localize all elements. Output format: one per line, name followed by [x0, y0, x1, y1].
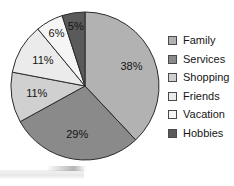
pie-slice-label-hobbies: 5% — [68, 20, 84, 32]
legend-item-shopping[interactable]: Shopping — [168, 71, 234, 84]
legend-item-vacation[interactable]: Vacation — [168, 108, 234, 121]
legend-item-label: Friends — [183, 91, 220, 102]
pie-slice-label-friends: 11% — [32, 54, 53, 66]
pie-slice-label-services: 29% — [66, 128, 88, 140]
legend-swatch-icon-friends — [168, 92, 177, 101]
pie-slice-label-family: 38% — [120, 60, 142, 72]
legend-item-label: Hobbies — [183, 128, 223, 139]
bottom-artifact-shadow — [46, 166, 86, 171]
legend-item-family[interactable]: Family — [168, 34, 234, 47]
legend-swatch-icon-shopping — [168, 73, 177, 82]
legend-item-label: Shopping — [183, 72, 230, 83]
pie-slice-label-shopping: 11% — [26, 87, 47, 99]
pie-svg: 38%29%11%11%6%5% — [0, 0, 170, 186]
legend-swatch-icon-hobbies — [168, 129, 177, 138]
legend-item-label: Family — [183, 35, 215, 46]
legend-swatch-icon-services — [168, 55, 177, 64]
chart-legend: FamilyServicesShoppingFriendsVacationHob… — [168, 34, 234, 140]
pie-plot-area: 38%29%11%11%6%5% — [0, 0, 170, 186]
legend-swatch-icon-family — [168, 36, 177, 45]
legend-item-hobbies[interactable]: Hobbies — [168, 127, 234, 140]
legend-swatch-icon-vacation — [168, 110, 177, 119]
pie-slice-label-vacation: 6% — [49, 27, 65, 39]
pie-chart-figure: 38%29%11%11%6%5% FamilyServicesShoppingF… — [0, 0, 234, 186]
bottom-artifact-band — [0, 170, 84, 179]
legend-item-label: Vacation — [183, 109, 225, 120]
legend-item-friends[interactable]: Friends — [168, 90, 234, 103]
legend-item-services[interactable]: Services — [168, 53, 234, 66]
legend-item-label: Services — [183, 54, 225, 65]
